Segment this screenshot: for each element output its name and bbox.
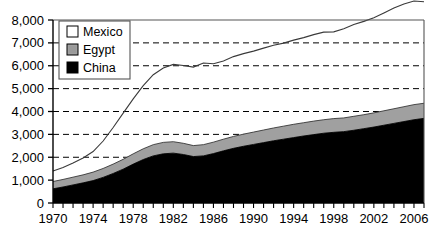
x-axis-tick-label: 1990 bbox=[239, 211, 268, 226]
x-axis-tick-label: 1974 bbox=[79, 211, 108, 226]
x-axis-tick-label: 2002 bbox=[359, 211, 388, 226]
legend-label-china: China bbox=[83, 61, 116, 75]
y-axis-tick-label: 5,000 bbox=[11, 81, 44, 96]
x-axis-tick-label: 1982 bbox=[159, 211, 188, 226]
y-axis-tick-label: 0 bbox=[37, 196, 44, 211]
x-axis-tick-label: 1978 bbox=[119, 211, 148, 226]
x-axis-tick-label: 1970 bbox=[39, 211, 68, 226]
x-axis-tick-label: 1998 bbox=[319, 211, 348, 226]
x-axis-tick-label: 1994 bbox=[279, 211, 308, 226]
y-axis-ticks bbox=[48, 20, 53, 203]
y-axis-tick-label: 6,000 bbox=[11, 58, 44, 73]
y-axis-tick-label: 7,000 bbox=[11, 35, 44, 50]
legend-swatch-mexico bbox=[67, 26, 78, 37]
x-axis-ticks bbox=[53, 203, 424, 208]
y-axis-tick-label: 2,000 bbox=[11, 150, 44, 165]
chart-canvas: 01,0002,0003,0004,0005,0006,0007,0008,00… bbox=[0, 0, 442, 232]
x-axis-tick-label: 1986 bbox=[199, 211, 228, 226]
legend-label-mexico: Mexico bbox=[83, 25, 123, 39]
y-axis-tick-label: 3,000 bbox=[11, 127, 44, 142]
y-axis-tick-label: 4,000 bbox=[11, 104, 44, 119]
y-axis-labels: 01,0002,0003,0004,0005,0006,0007,0008,00… bbox=[11, 13, 44, 211]
y-axis-tick-label: 8,000 bbox=[11, 13, 44, 28]
x-axis-tick-label: 2006 bbox=[400, 211, 429, 226]
x-axis-labels: 1970197419781982198619901994199820022006 bbox=[39, 211, 429, 226]
chart-legend: MexicoEgyptChina bbox=[59, 21, 130, 79]
legend-label-egypt: Egypt bbox=[83, 43, 115, 57]
stacked-area-chart: 01,0002,0003,0004,0005,0006,0007,0008,00… bbox=[0, 0, 442, 232]
y-axis-tick-label: 1,000 bbox=[11, 173, 44, 188]
legend-swatch-inner-egypt bbox=[69, 46, 76, 53]
legend-swatch-china bbox=[67, 62, 78, 73]
